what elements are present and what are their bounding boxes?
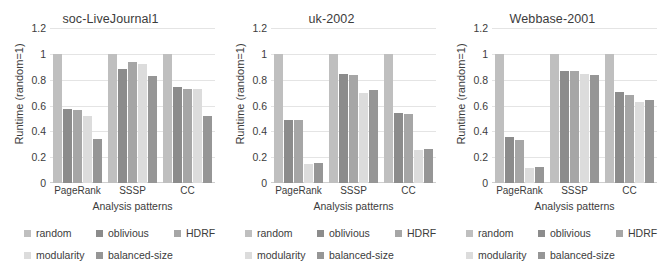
- bar: [274, 54, 283, 183]
- bar: [83, 116, 92, 183]
- x-tick-label: CC: [382, 185, 436, 196]
- bar: [163, 54, 172, 183]
- legend-item-random[interactable]: random: [245, 227, 317, 239]
- legend-row: randomobliviousHDRF: [24, 222, 220, 244]
- bar: [304, 164, 313, 183]
- x-tick-label: CC: [603, 185, 657, 196]
- bar: [339, 74, 348, 183]
- legend-swatch-icon: [174, 230, 181, 237]
- x-tick-label: PageRank: [493, 185, 547, 196]
- bar: [138, 64, 147, 183]
- bar: [515, 140, 524, 183]
- bar: [284, 120, 293, 183]
- plot-area: Runtime (random=1)00.20.40.60.811.2PageR…: [442, 28, 663, 203]
- bar: [53, 54, 62, 183]
- bar-group: [605, 28, 655, 183]
- bar: [424, 149, 433, 183]
- bar: [294, 120, 303, 183]
- bar: [625, 95, 634, 183]
- bar: [560, 71, 569, 183]
- legend-item-oblivious[interactable]: oblivious: [96, 227, 174, 239]
- legend-item-oblivious[interactable]: oblivious: [538, 227, 616, 239]
- y-tick-label: 0.8: [31, 74, 46, 86]
- bar: [73, 110, 82, 183]
- legend-swatch-icon: [466, 230, 473, 237]
- legend-label: oblivious: [108, 227, 149, 239]
- legend-label: modularity: [257, 249, 305, 261]
- legend-label: balanced-size: [108, 249, 173, 261]
- bar-group: [550, 28, 600, 183]
- y-tick-label: 0.8: [473, 74, 488, 86]
- legend-label: HDRF: [407, 227, 436, 239]
- legend-row: randomobliviousHDRF: [245, 222, 441, 244]
- legend-row: modularitybalanced-size: [466, 244, 662, 266]
- legend-item-modularity[interactable]: modularity: [466, 249, 538, 261]
- legend-label: balanced-size: [329, 249, 394, 261]
- x-axis-ticks: PageRankSSSPCC: [50, 185, 215, 196]
- bar: [570, 71, 579, 183]
- bar: [580, 74, 589, 183]
- legend-label: modularity: [36, 249, 84, 261]
- bar: [193, 89, 202, 183]
- legend-label: oblivious: [550, 227, 591, 239]
- legend-label: HDRF: [186, 227, 215, 239]
- legend-item-random[interactable]: random: [466, 227, 538, 239]
- bar: [108, 54, 117, 183]
- legend-swatch-icon: [616, 230, 623, 237]
- bar-group: [384, 28, 434, 183]
- legend-item-oblivious[interactable]: oblivious: [317, 227, 395, 239]
- legend-label: balanced-size: [550, 249, 615, 261]
- plot-area: Runtime (random=1)00.20.40.60.811.2PageR…: [221, 28, 442, 203]
- y-tick-label: 0.4: [473, 125, 488, 137]
- bar: [63, 109, 72, 183]
- legend-item-balanced-size[interactable]: balanced-size: [317, 249, 395, 261]
- legend-item-balanced-size[interactable]: balanced-size: [96, 249, 174, 261]
- legend-item-HDRF[interactable]: HDRF: [395, 227, 441, 239]
- legend-label: random: [257, 227, 293, 239]
- y-tick-label: 1: [261, 48, 267, 60]
- y-tick-label: 0.2: [252, 151, 267, 163]
- bar: [495, 54, 504, 183]
- y-tick-label: 1.2: [473, 22, 488, 34]
- legend-item-modularity[interactable]: modularity: [24, 249, 96, 261]
- x-axis-title: Analysis patterns: [50, 200, 215, 212]
- legend-item-balanced-size[interactable]: balanced-size: [538, 249, 616, 261]
- x-tick-label: PageRank: [272, 185, 326, 196]
- legend-row: modularitybalanced-size: [24, 244, 220, 266]
- plot-area: Runtime (random=1)00.20.40.60.811.2PageR…: [0, 28, 221, 203]
- legend-item-HDRF[interactable]: HDRF: [616, 227, 662, 239]
- y-tick-label: 0.8: [252, 74, 267, 86]
- bar: [605, 54, 614, 183]
- bar: [635, 102, 644, 183]
- bar: [349, 75, 358, 183]
- x-axis-ticks: PageRankSSSPCC: [271, 185, 436, 196]
- legend-swatch-icon: [395, 230, 402, 237]
- bar-group: [329, 28, 379, 183]
- y-tick-label: 1.2: [31, 22, 46, 34]
- bar-group: [495, 28, 545, 183]
- legend-item-random[interactable]: random: [24, 227, 96, 239]
- bar-groups: [271, 28, 436, 183]
- legend-row: randomobliviousHDRF: [466, 222, 662, 244]
- bar: [329, 54, 338, 183]
- y-tick-label: 1.2: [252, 22, 267, 34]
- bar: [93, 139, 102, 183]
- bar: [118, 69, 127, 183]
- x-axis-title: Analysis patterns: [492, 200, 657, 212]
- legend-swatch-icon: [466, 252, 473, 259]
- x-axis-title: Analysis patterns: [271, 200, 436, 212]
- legend-label: HDRF: [628, 227, 657, 239]
- bar: [314, 163, 323, 183]
- bar: [590, 75, 599, 184]
- legend-item-modularity[interactable]: modularity: [245, 249, 317, 261]
- y-axis-ticks: 00.20.40.60.811.2: [464, 28, 488, 183]
- chart-panel: soc-LiveJournal1Runtime (random=1)00.20.…: [0, 0, 221, 276]
- legend-swatch-icon: [317, 230, 324, 237]
- legend-item-HDRF[interactable]: HDRF: [174, 227, 220, 239]
- legend-row: modularitybalanced-size: [245, 244, 441, 266]
- bar: [505, 137, 514, 184]
- chart-legend: randomobliviousHDRFmodularitybalanced-si…: [466, 222, 662, 266]
- legend-label: random: [478, 227, 514, 239]
- x-tick-label: SSSP: [106, 185, 160, 196]
- bar-group: [108, 28, 158, 183]
